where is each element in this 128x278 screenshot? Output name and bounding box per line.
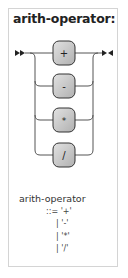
terminal-divide: / <box>53 143 75 167</box>
terminal-plus: + <box>53 41 75 65</box>
railroad-diagram: + - * / <box>8 8 120 178</box>
grammar-line: | '/' <box>19 243 86 256</box>
svg-text:+: + <box>60 48 68 59</box>
grammar-line: | '-' <box>19 218 86 231</box>
grammar-text: arith-operator ::= '+' | '-' | '*' | '/' <box>19 193 86 256</box>
grammar-line: | '*' <box>19 231 86 244</box>
svg-text:*: * <box>62 116 67 126</box>
terminal-multiply: * <box>53 108 75 132</box>
grammar-line: ::= '+' <box>19 206 86 219</box>
start-arrow-icon <box>15 50 25 56</box>
grammar-rule-name: arith-operator <box>19 193 86 206</box>
end-arrow-icon <box>102 50 113 56</box>
terminal-minus: - <box>53 74 75 98</box>
svg-text:-: - <box>62 81 66 92</box>
